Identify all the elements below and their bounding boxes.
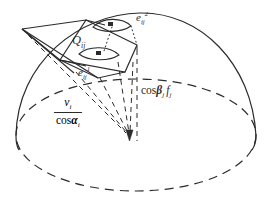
label-element-lower-sup: 1 bbox=[87, 65, 90, 72]
label-flux-beta-sub: j bbox=[162, 91, 164, 99]
label-fraction: vi cosαi bbox=[54, 96, 82, 130]
label-patch-sub: ij bbox=[81, 41, 85, 50]
figure-canvas: eij2 Qij eij1 cosβjfj vi cosαi bbox=[0, 0, 273, 202]
fraction-num-sub: i bbox=[69, 103, 71, 111]
label-flux-f-sub: j bbox=[169, 91, 171, 99]
dome-outline bbox=[16, 13, 256, 136]
fraction-den-sub: i bbox=[78, 121, 80, 129]
label-flux-cos: cos bbox=[141, 84, 156, 96]
label-flux: cosβjfj bbox=[141, 85, 171, 99]
diagram-svg bbox=[0, 0, 273, 202]
label-element-upper-sub: ij bbox=[141, 18, 145, 25]
fraction-numerator: vi bbox=[54, 96, 82, 112]
fraction-den-cos: cos bbox=[56, 114, 71, 126]
ray-2 bbox=[100, 78, 128, 133]
right-angle-marker-upper bbox=[108, 22, 113, 26]
label-patch-base: Q bbox=[72, 33, 81, 47]
projection-arrowhead bbox=[126, 130, 133, 141]
label-element-lower: eij1 bbox=[78, 66, 90, 81]
label-patch: Qij bbox=[72, 34, 85, 49]
label-element-lower-sub: ij bbox=[83, 73, 87, 80]
cone-wedge bbox=[22, 20, 105, 78]
base-ellipse bbox=[16, 79, 256, 191]
label-element-upper: eij2 bbox=[136, 11, 148, 26]
right-angle-marker-lower bbox=[96, 51, 101, 55]
label-element-upper-sup: 2 bbox=[145, 10, 148, 17]
fraction-denominator: cosαi bbox=[54, 112, 82, 130]
cone-edge-top bbox=[22, 20, 105, 29]
ray-4 bbox=[130, 62, 133, 133]
